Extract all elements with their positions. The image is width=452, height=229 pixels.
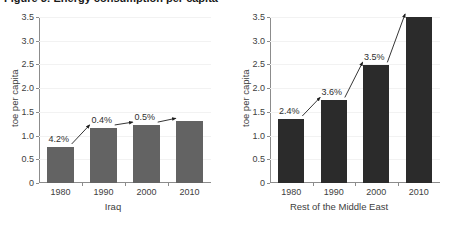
x-tick-mark bbox=[313, 183, 314, 186]
growth-label-1990-2000: 3.6% bbox=[322, 87, 343, 97]
x-tick-mark bbox=[355, 183, 356, 186]
gridline bbox=[39, 41, 211, 42]
gridline bbox=[39, 88, 211, 89]
y-tick-mark bbox=[267, 112, 270, 113]
plot-area-left: 00.51.01.52.02.53.03.51980199020002010 bbox=[39, 17, 211, 183]
x-tick-label-2000: 2000 bbox=[366, 187, 386, 197]
y-tick-mark bbox=[267, 17, 270, 18]
y-tick-label: 2.0 bbox=[252, 83, 265, 93]
bar-2010[interactable] bbox=[176, 121, 203, 183]
y-tick-label: 3.0 bbox=[21, 36, 34, 46]
x-tick-label-2010: 2010 bbox=[179, 187, 199, 197]
y-tick-label: 3.5 bbox=[252, 12, 265, 22]
growth-label-1990-2000: 0.4% bbox=[91, 115, 112, 125]
growth-label-2000-2010: 0.5% bbox=[134, 112, 155, 122]
x-tick-label-2000: 2000 bbox=[136, 187, 156, 197]
y-tick-label: 2.5 bbox=[252, 59, 265, 69]
y-axis-line-right bbox=[270, 17, 271, 183]
y-axis-label-right: toe per capita bbox=[240, 69, 251, 127]
figure-title-strip: Figure 3: Energy consumption per capita bbox=[0, 0, 452, 9]
figure-title: Figure 3: Energy consumption per capita bbox=[4, 0, 218, 4]
y-axis-line-left bbox=[39, 17, 40, 183]
x-axis-label-left: Iraq bbox=[0, 201, 226, 212]
growth-label-1980-1990: 2.4% bbox=[279, 106, 300, 116]
y-tick-label: 3.5 bbox=[21, 12, 34, 22]
y-tick-label: 0.5 bbox=[252, 154, 265, 164]
x-tick-mark bbox=[398, 183, 399, 186]
y-tick-label: 2.5 bbox=[21, 59, 34, 69]
bar-1990[interactable] bbox=[90, 128, 117, 183]
x-tick-label-1980: 1980 bbox=[50, 187, 70, 197]
bar-1990[interactable] bbox=[321, 100, 347, 183]
y-tick-label: 2.0 bbox=[21, 83, 34, 93]
y-tick-mark bbox=[267, 41, 270, 42]
gridline bbox=[39, 112, 211, 113]
y-tick-mark bbox=[267, 136, 270, 137]
gridline bbox=[39, 64, 211, 65]
y-tick-label: 1.5 bbox=[21, 107, 34, 117]
y-tick-mark bbox=[267, 88, 270, 89]
y-tick-label: 3.0 bbox=[252, 36, 265, 46]
y-tick-mark bbox=[267, 159, 270, 160]
x-axis-label-right: Rest of the Middle East bbox=[226, 201, 452, 212]
y-tick-mark bbox=[267, 64, 270, 65]
y-tick-label: 0 bbox=[29, 178, 34, 188]
plot-area-right: 00.51.01.52.02.53.03.51980199020002010 bbox=[270, 17, 440, 183]
bar-2000[interactable] bbox=[133, 125, 160, 183]
bar-2010[interactable] bbox=[406, 17, 432, 183]
x-tick-mark bbox=[125, 183, 126, 186]
y-tick-mark bbox=[36, 183, 39, 184]
x-tick-label-1980: 1980 bbox=[281, 187, 301, 197]
x-tick-label-1990: 1990 bbox=[93, 187, 113, 197]
chart-panel-iraq: toe per capita 00.51.01.52.02.53.03.5198… bbox=[0, 9, 226, 229]
x-tick-label-1990: 1990 bbox=[324, 187, 344, 197]
x-tick-mark bbox=[82, 183, 83, 186]
bar-1980[interactable] bbox=[47, 147, 74, 183]
y-tick-mark bbox=[267, 183, 270, 184]
y-tick-mark bbox=[36, 64, 39, 65]
x-tick-mark bbox=[168, 183, 169, 186]
growth-label-1980-1990: 4.2% bbox=[48, 134, 69, 144]
growth-label-2000-2010: 3.5% bbox=[364, 52, 385, 62]
y-tick-mark bbox=[36, 112, 39, 113]
chart-panel-rest-of-middle-east: toe per capita 00.51.01.52.02.53.03.5198… bbox=[226, 9, 452, 229]
y-tick-label: 0 bbox=[260, 178, 265, 188]
y-tick-mark bbox=[36, 159, 39, 160]
gridline bbox=[39, 17, 211, 18]
y-tick-label: 1.5 bbox=[252, 107, 265, 117]
y-axis-label-left: toe per capita bbox=[9, 69, 20, 127]
y-tick-mark bbox=[36, 136, 39, 137]
x-tick-label-2010: 2010 bbox=[409, 187, 429, 197]
bar-2000[interactable] bbox=[363, 65, 389, 183]
figure-two-panel-bar-charts: toe per capita 00.51.01.52.02.53.03.5198… bbox=[0, 9, 452, 229]
y-tick-label: 1.0 bbox=[21, 131, 34, 141]
y-tick-label: 1.0 bbox=[252, 131, 265, 141]
y-tick-mark bbox=[36, 88, 39, 89]
y-tick-mark bbox=[36, 17, 39, 18]
bar-1980[interactable] bbox=[278, 119, 304, 183]
y-tick-mark bbox=[36, 41, 39, 42]
y-tick-label: 0.5 bbox=[21, 154, 34, 164]
